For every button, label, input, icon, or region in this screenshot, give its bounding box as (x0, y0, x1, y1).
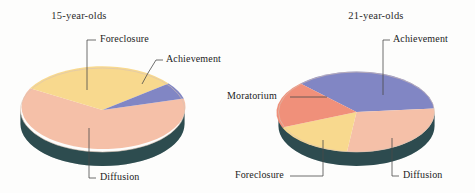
label-diffusion-right: Diffusion (403, 170, 443, 180)
label-foreclosure-left: Foreclosure (100, 34, 149, 44)
label-achievement-right: Achievement (393, 34, 448, 44)
label-achievement-left: Achievement (166, 54, 221, 64)
pie-chart-left (0, 0, 238, 193)
label-moratorium-right: Moratorium (227, 91, 277, 101)
pie-chart-figure: 15-year-olds (0, 0, 475, 193)
label-foreclosure-right: Foreclosure (235, 170, 284, 180)
leader-line-diffusion-left-cap (89, 170, 96, 178)
chart-panel-21-year-olds: 21-year-olds (237, 0, 475, 193)
chart-panel-15-year-olds: 15-year-olds (0, 0, 238, 193)
label-diffusion-left: Diffusion (100, 172, 140, 182)
